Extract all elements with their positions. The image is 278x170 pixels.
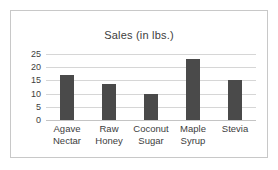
x-axis-label: MapleSyrup <box>172 123 214 146</box>
x-axis-label-line: Maple <box>172 123 214 135</box>
bar <box>102 84 116 120</box>
x-axis-label-line: Agave <box>46 123 88 135</box>
plot-area: 0510152025 <box>46 54 256 120</box>
x-axis-label-line: Sugar <box>130 135 172 147</box>
y-tick-label: 5 <box>36 102 41 112</box>
bar-slot <box>88 54 130 120</box>
gridline-0 <box>46 120 256 121</box>
x-axis-label-line: Nectar <box>46 135 88 147</box>
chart-frame: Sales (in lbs.) 0510152025 AgaveNectarRa… <box>10 10 268 158</box>
x-axis-label-line: Coconut <box>130 123 172 135</box>
bar <box>228 80 242 120</box>
bar <box>186 59 200 120</box>
bar-slot <box>214 54 256 120</box>
y-tick-label: 20 <box>31 62 41 72</box>
bar <box>144 94 158 120</box>
y-tick-label: 0 <box>36 115 41 125</box>
bar-series <box>46 54 256 120</box>
bar-slot <box>172 54 214 120</box>
x-axis-label-line: Syrup <box>172 135 214 147</box>
chart-title: Sales (in lbs.) <box>11 29 267 41</box>
y-tick-label: 25 <box>31 49 41 59</box>
x-axis-label-line: Honey <box>88 135 130 147</box>
x-axis-label: AgaveNectar <box>46 123 88 146</box>
bar-slot <box>46 54 88 120</box>
bar-slot <box>130 54 172 120</box>
bar <box>60 75 74 120</box>
x-axis-label: Stevia <box>214 123 256 135</box>
x-axis-label-line: Stevia <box>214 123 256 135</box>
y-tick-label: 10 <box>31 89 41 99</box>
y-tick-label: 15 <box>31 75 41 85</box>
x-axis-labels: AgaveNectarRawHoneyCoconutSugarMapleSyru… <box>46 123 256 155</box>
x-axis-label: RawHoney <box>88 123 130 146</box>
x-axis-label-line: Raw <box>88 123 130 135</box>
x-axis-label: CoconutSugar <box>130 123 172 146</box>
